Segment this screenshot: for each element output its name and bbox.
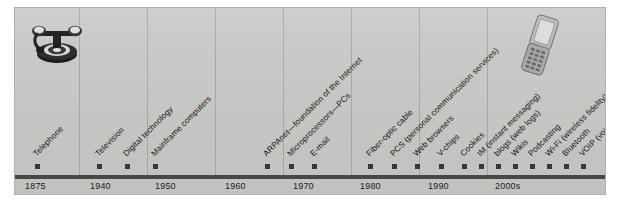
year-label: 1960 (225, 181, 246, 191)
event-marker (439, 164, 444, 169)
timeline-panel: TelephoneTelevisionDigital technologyMai… (14, 7, 606, 195)
gridline-2 (215, 8, 216, 176)
year-label: 1990 (428, 181, 449, 191)
event-marker (415, 164, 420, 169)
event-marker (462, 164, 467, 169)
event-label: Digital technology (122, 105, 175, 158)
event-marker (265, 164, 270, 169)
event-marker (564, 164, 569, 169)
event-marker (496, 164, 501, 169)
event-marker (289, 164, 294, 169)
event-label: E-mail (309, 136, 332, 159)
year-label: 2000s (495, 181, 521, 191)
year-label: 1980 (360, 181, 381, 191)
event-marker (125, 164, 130, 169)
event-marker (513, 164, 518, 169)
year-label: 1950 (155, 181, 176, 191)
event-label: Television (94, 126, 126, 158)
event-label: Telephone (32, 125, 65, 158)
gridline-4 (351, 8, 352, 176)
event-marker (547, 164, 552, 169)
event-label: V-chips (436, 133, 461, 158)
event-marker (581, 164, 586, 169)
year-label: 1875 (25, 181, 46, 191)
event-marker (368, 164, 373, 169)
gridline-3 (283, 8, 284, 176)
event-marker (479, 164, 484, 169)
event-marker (312, 164, 317, 169)
event-label: ARPAnet—foundation of the Internet (262, 56, 364, 158)
flip-cell-phone-icon (509, 12, 571, 78)
year-label-band: 18751940195019601970198019902000s (15, 179, 606, 195)
year-label: 1970 (293, 181, 314, 191)
event-marker (530, 164, 535, 169)
event-marker (153, 164, 158, 169)
event-marker (97, 164, 102, 169)
gridline-1 (147, 8, 148, 176)
year-label: 1940 (90, 181, 111, 191)
technology-timeline-figure: TelephoneTelevisionDigital technologyMai… (0, 0, 618, 212)
event-marker (392, 164, 397, 169)
event-label: Mainframe computers (150, 95, 213, 158)
antique-rotary-telephone-icon (29, 14, 85, 66)
event-marker (35, 164, 40, 169)
